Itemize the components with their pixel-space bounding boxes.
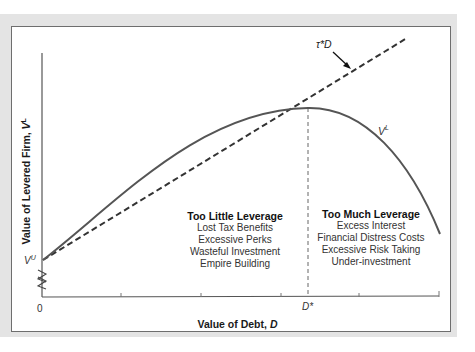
- list-item: Excessive Risk Taking: [312, 244, 430, 256]
- list-item: Financial Distress Costs: [312, 232, 430, 244]
- too-much-leverage-box: Too Much Leverage Excess Interest Financ…: [312, 208, 430, 268]
- list-item: Wasteful Investment: [175, 246, 295, 258]
- list-item: Excessive Perks: [175, 234, 295, 246]
- box-title: Too Much Leverage: [312, 208, 430, 220]
- x-axis-label: Value of Debt, D: [0, 318, 475, 330]
- list-item: Empire Building: [175, 258, 295, 270]
- too-little-leverage-box: Too Little Leverage Lost Tax Benefits Ex…: [175, 210, 295, 270]
- list-item: Lost Tax Benefits: [175, 222, 295, 234]
- vu-label: VU: [24, 254, 36, 266]
- plot-area: [0, 0, 475, 352]
- list-item: Under-investment: [312, 256, 430, 268]
- y-axis-label: Value of Levered Firm, VL: [20, 96, 33, 266]
- tau-label: τ*D: [316, 38, 332, 50]
- origin-label: 0: [37, 303, 43, 314]
- box-title: Too Little Leverage: [175, 210, 295, 222]
- x-axis: [42, 296, 439, 297]
- list-item: Excess Interest: [312, 220, 430, 232]
- vl-label: VL: [378, 124, 389, 137]
- dstar-label: D*: [302, 301, 313, 312]
